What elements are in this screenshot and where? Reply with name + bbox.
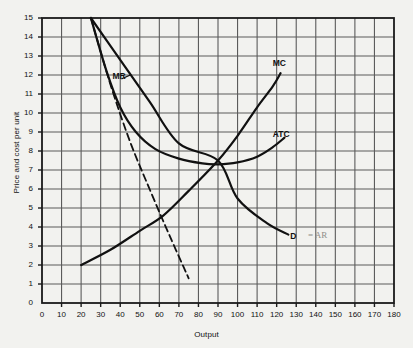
y-tick-label: 4 <box>11 222 33 231</box>
y-tick-label: 12 <box>11 70 33 79</box>
y-tick-label: 0 <box>11 298 33 307</box>
chart-plot-area <box>0 0 413 348</box>
economics-cost-curve-chart: 0123456789101112131415 01020304050607080… <box>0 0 413 348</box>
y-tick-label: 14 <box>11 32 33 41</box>
y-tick-label: 3 <box>11 241 33 250</box>
y-tick-label: 1 <box>11 279 33 288</box>
y-tick-label: 2 <box>11 260 33 269</box>
curve-label-d: D <box>290 231 296 241</box>
pencil-annotation: = AR <box>308 230 327 240</box>
curve-label-mc: MC <box>273 58 286 68</box>
x-tick-label: 180 <box>383 310 405 319</box>
y-tick-label: 13 <box>11 51 33 60</box>
y-axis-title: Price and cost per unit <box>12 98 21 208</box>
x-axis-title: Output <box>0 330 413 339</box>
curve-label-mr: MR <box>112 71 125 81</box>
y-tick-label: 11 <box>11 89 33 98</box>
y-tick-label: 15 <box>11 13 33 22</box>
curve-label-atc: ATC <box>273 129 290 139</box>
